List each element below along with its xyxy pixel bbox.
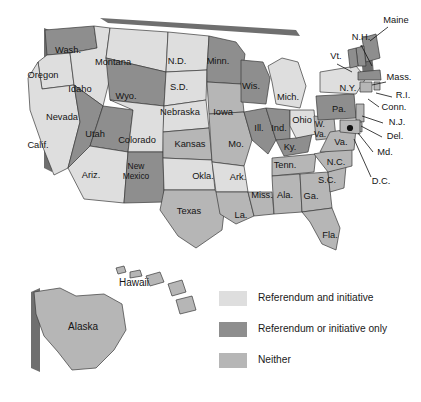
state-label-nv: Nevada [46, 112, 79, 122]
state-fl [302, 208, 340, 250]
state-label-sd: S.D. [170, 82, 188, 92]
state-nj [356, 104, 364, 122]
state-label-fl: Fla. [322, 230, 338, 240]
dc-marker-dot [347, 125, 353, 131]
state-label-ca: Calif. [27, 140, 48, 150]
legend-item-both: Referendum and initiative [219, 287, 419, 309]
state-label-sc: S.C. [318, 175, 336, 185]
state-label-ny: N.Y. [340, 83, 357, 93]
state-label-wi: Wis. [242, 81, 260, 91]
state-ct [360, 82, 372, 92]
state-ma [358, 70, 381, 80]
state-label-tn: Tenn. [274, 160, 297, 170]
state-label-il: Ill. [254, 123, 263, 133]
callout-label-nj: N.J. [389, 117, 406, 127]
state-vt [348, 48, 358, 68]
legend-label-both: Referendum and initiative [258, 293, 374, 303]
state-label-mo: Mo. [228, 139, 244, 149]
state-label-mn: Minn. [207, 56, 230, 66]
legend-label-only: Referendum or initiative only [258, 324, 387, 334]
callout-label-ct: Conn. [382, 102, 407, 112]
callout-label-de: Del. [387, 131, 404, 141]
state-label-wa: Wash. [55, 45, 81, 55]
state-label-mi: Mich. [277, 92, 299, 102]
state-label-wy: Wyo. [115, 91, 136, 101]
map-legend: Referendum and initiative Referendum or … [219, 287, 419, 380]
state-tx [160, 190, 225, 248]
legend-swatch-neither [219, 353, 247, 368]
legend-swatch-only [219, 322, 247, 337]
state-label-nc: N.C. [327, 157, 346, 167]
state-label-al: Ala. [277, 190, 293, 200]
state-label-nd: N.D. [168, 56, 187, 66]
state-label-in: Ind. [271, 123, 287, 133]
state-label-wv: W. [315, 119, 325, 129]
state-label-ga: Ga. [304, 191, 319, 201]
callout-label-nh: N.H. [352, 32, 371, 42]
state-label-ky: Ky. [284, 142, 297, 152]
callout-label-md: Md. [377, 147, 393, 157]
legend-swatch-both [219, 291, 247, 306]
state-label-or: Oregon [27, 70, 58, 80]
state-label-ia: Iowa [213, 107, 233, 117]
state-label-co: Colorado [118, 135, 156, 145]
state-label-ar: Ark. [230, 172, 247, 182]
state-hi [116, 266, 196, 314]
callout-label-vt: Vt. [330, 51, 341, 61]
callout-label-ri: R.I. [396, 90, 410, 100]
state-label-wv-2: Va. [314, 129, 326, 139]
legend-label-neither: Neither [258, 355, 291, 365]
state-label-nm: New [128, 161, 146, 171]
state-label-la: La. [235, 210, 248, 220]
callout-label-me: Maine [383, 15, 408, 25]
state-label-ak: Alaska [68, 321, 98, 332]
state-label-ms: Miss. [251, 190, 273, 200]
callout-label-ma: Mass. [387, 72, 412, 82]
state-label-va: Va. [334, 137, 347, 147]
state-label-nm-2: Mexico [123, 171, 150, 181]
state-label-pa: Pa. [332, 104, 346, 114]
us-map-figure: Wash.OregonCalif.IdahoNevadaUtahAriz.Mon… [0, 0, 421, 402]
state-label-oh: Ohio [292, 115, 312, 125]
state-label-id: Idaho [68, 84, 91, 94]
legend-item-neither: Neither [219, 349, 419, 371]
state-label-ks: Kansas [174, 139, 205, 149]
state-label-ut: Utah [85, 129, 105, 139]
callout-label-dc: D.C. [372, 176, 391, 186]
state-label-tx: Texas [177, 206, 202, 216]
state-label-az: Ariz. [82, 170, 101, 180]
state-label-hi: Hawaii [119, 277, 149, 288]
state-label-mt: Montana [95, 57, 132, 67]
legend-item-only: Referendum or initiative only [219, 318, 419, 340]
state-label-ne: Nebraska [160, 107, 201, 117]
state-label-ok: Okla. [192, 171, 214, 181]
